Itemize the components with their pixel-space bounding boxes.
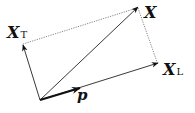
label-p-main: p [77,86,88,104]
label-x-t: XT [6,23,27,42]
label-x-t-subscript: T [20,29,27,40]
vector-xt-arrow [23,45,40,100]
vector-x-arrow [40,7,138,100]
label-x-main: X [143,3,157,22]
label-x-l-subscript: L [176,66,183,77]
dotted-projection-xt-to-x [23,8,137,44]
label-x-t-main: X [6,23,20,42]
vector-decomposition-diagram: XT X XL p [0,0,195,113]
label-x-l-main: X [162,60,176,79]
label-x-l: XL [162,60,183,79]
label-p: p [77,86,88,104]
label-x: X [143,3,157,22]
